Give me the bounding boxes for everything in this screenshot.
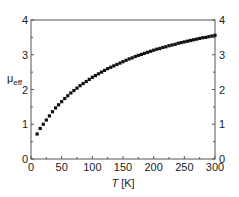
data-point-marker <box>149 50 152 53</box>
data-point-marker <box>140 53 143 56</box>
mu-eff-vs-temperature-chart: 01234 01234 050100150200250300 μeff T [K… <box>0 0 239 197</box>
data-point-marker <box>51 110 54 113</box>
right-y-tick-label: 2 <box>219 84 225 96</box>
data-point-marker <box>170 43 173 46</box>
data-point-marker <box>36 132 39 135</box>
data-point-marker <box>75 87 78 90</box>
data-point-marker <box>137 54 140 57</box>
y-axis-title: μeff <box>7 72 23 87</box>
data-point-marker <box>183 40 186 43</box>
data-point-marker <box>69 91 72 94</box>
data-point-marker <box>57 103 60 106</box>
data-point-marker <box>63 97 66 100</box>
data-point-marker <box>180 41 183 44</box>
data-point-marker <box>177 42 180 45</box>
data-point-marker <box>143 52 146 55</box>
data-point-marker <box>134 55 137 58</box>
x-tick-label: 150 <box>114 161 132 173</box>
data-point-marker <box>94 74 97 77</box>
data-point-marker <box>210 34 213 37</box>
y-tick-label: 3 <box>22 49 28 61</box>
right-y-tick-label: 3 <box>219 49 225 61</box>
data-point-marker <box>207 35 210 38</box>
data-point-marker <box>146 51 149 54</box>
y-tick-label: 1 <box>22 118 28 130</box>
y-tick-label: 2 <box>22 84 28 96</box>
x-axis-title: T [K] <box>111 177 134 189</box>
data-point-marker <box>82 82 85 85</box>
data-point-marker <box>161 46 164 49</box>
data-point-marker <box>164 45 167 48</box>
data-point-marker <box>78 84 81 87</box>
data-point-marker <box>189 39 192 42</box>
data-series-markers <box>36 34 217 136</box>
x-tick-labels: 050100150200250300 <box>28 161 224 173</box>
data-point-marker <box>195 38 198 41</box>
y-tick-label: 4 <box>22 14 28 26</box>
data-point-marker <box>198 37 201 40</box>
right-y-tick-label: 4 <box>219 14 225 26</box>
x-tick-label: 0 <box>28 161 34 173</box>
data-point-marker <box>186 40 189 43</box>
data-point-marker <box>174 43 177 46</box>
x-tick-label: 50 <box>56 161 68 173</box>
data-point-marker <box>97 72 100 75</box>
data-point-marker <box>66 94 69 97</box>
data-point-marker <box>118 61 121 64</box>
x-tick-label: 300 <box>206 161 224 173</box>
data-point-marker <box>155 48 158 51</box>
data-point-marker <box>88 78 91 81</box>
data-point-marker <box>213 34 216 37</box>
data-point-marker <box>204 36 207 39</box>
data-point-marker <box>158 47 161 50</box>
x-tick-label: 200 <box>144 161 162 173</box>
data-point-marker <box>152 49 155 52</box>
x-tick-label: 250 <box>175 161 193 173</box>
data-point-marker <box>124 59 127 62</box>
data-point-marker <box>91 76 94 79</box>
data-point-marker <box>54 106 57 109</box>
data-point-marker <box>60 100 63 103</box>
data-point-marker <box>115 63 118 66</box>
right-y-tick-label: 1 <box>219 118 225 130</box>
data-point-marker <box>121 60 124 63</box>
data-point-marker <box>100 71 103 74</box>
data-point-marker <box>85 80 88 83</box>
data-point-marker <box>45 118 48 121</box>
data-point-marker <box>72 89 75 92</box>
data-point-marker <box>103 69 106 72</box>
data-point-marker <box>167 44 170 47</box>
data-point-marker <box>39 127 42 130</box>
data-point-marker <box>112 64 115 67</box>
right-y-tick-labels: 01234 <box>219 14 225 165</box>
x-tick-label: 100 <box>83 161 101 173</box>
data-point-marker <box>109 66 112 69</box>
data-point-marker <box>192 38 195 41</box>
data-point-marker <box>128 57 131 60</box>
data-point-marker <box>131 56 134 59</box>
data-point-marker <box>42 123 45 126</box>
data-point-marker <box>106 67 109 70</box>
data-point-marker <box>201 36 204 39</box>
left-y-tick-labels: 01234 <box>22 14 28 165</box>
data-point-marker <box>48 114 51 117</box>
